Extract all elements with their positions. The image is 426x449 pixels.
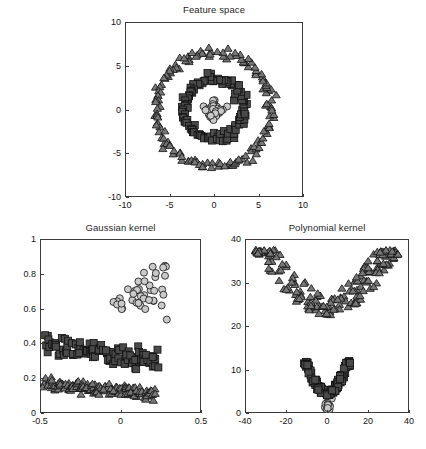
marker-triangle xyxy=(364,257,372,263)
x-tick-label: -20 xyxy=(279,416,292,426)
y-tick xyxy=(246,239,249,240)
figure-canvas: Feature space -10-50510-10-50510 Gaussia… xyxy=(0,0,426,449)
x-tick xyxy=(327,410,328,413)
y-tick xyxy=(246,326,249,327)
x-tick-label: 20 xyxy=(363,416,373,426)
marker-square xyxy=(304,362,311,369)
plot-area-polynomial-kernel xyxy=(245,239,409,413)
marker-triangle xyxy=(307,285,315,291)
series-class-2 xyxy=(301,358,354,399)
x-tick xyxy=(368,410,369,413)
marker-square xyxy=(347,359,354,366)
y-tick-label: 40 xyxy=(213,234,241,244)
marker-square xyxy=(337,375,344,382)
x-tick xyxy=(409,410,410,413)
marker-square xyxy=(312,376,319,383)
y-tick-label: 0 xyxy=(213,408,241,418)
marker-triangle xyxy=(275,277,283,283)
x-tick xyxy=(286,410,287,413)
panel-polynomial-kernel: Polynomial kernel -40-2002040010203040 xyxy=(0,0,426,449)
marker-square xyxy=(315,386,322,393)
scatter-layer xyxy=(245,239,409,413)
y-tick-label: 20 xyxy=(213,321,241,331)
y-tick xyxy=(246,283,249,284)
y-tick-label: 10 xyxy=(213,365,241,375)
y-tick xyxy=(246,413,249,414)
x-tick-label: 40 xyxy=(404,416,414,426)
marker-square xyxy=(329,387,336,394)
panel-title-polynomial-kernel: Polynomial kernel xyxy=(245,222,409,233)
series-class-3 xyxy=(251,246,402,318)
x-tick-label: 0 xyxy=(324,416,329,426)
y-tick-label: 30 xyxy=(213,278,241,288)
y-tick xyxy=(246,370,249,371)
